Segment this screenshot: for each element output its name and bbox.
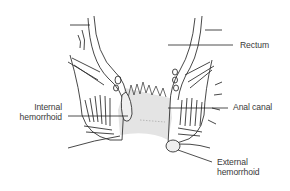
label-anal-canal: Anal canal	[233, 102, 272, 112]
label-rectum: Rectum	[240, 40, 269, 50]
external-hemorrhoid	[166, 140, 180, 152]
label-external-hemorrhoid-line2: hemorrhoid	[217, 167, 259, 177]
label-internal-hemorrhoid-line2: hemorrhoid	[8, 112, 62, 122]
label-internal-hemorrhoid-line1: Internal	[8, 102, 62, 112]
left-wall	[68, 16, 127, 140]
label-internal-hemorrhoid: Internal hemorrhoid	[8, 102, 62, 122]
label-external-hemorrhoid: External hemorrhoid	[217, 157, 259, 177]
label-external-hemorrhoid-line1: External	[217, 157, 259, 167]
right-wall	[168, 16, 222, 145]
perianal-skin	[68, 136, 210, 148]
external-hemorrhoid-leader	[178, 150, 212, 162]
